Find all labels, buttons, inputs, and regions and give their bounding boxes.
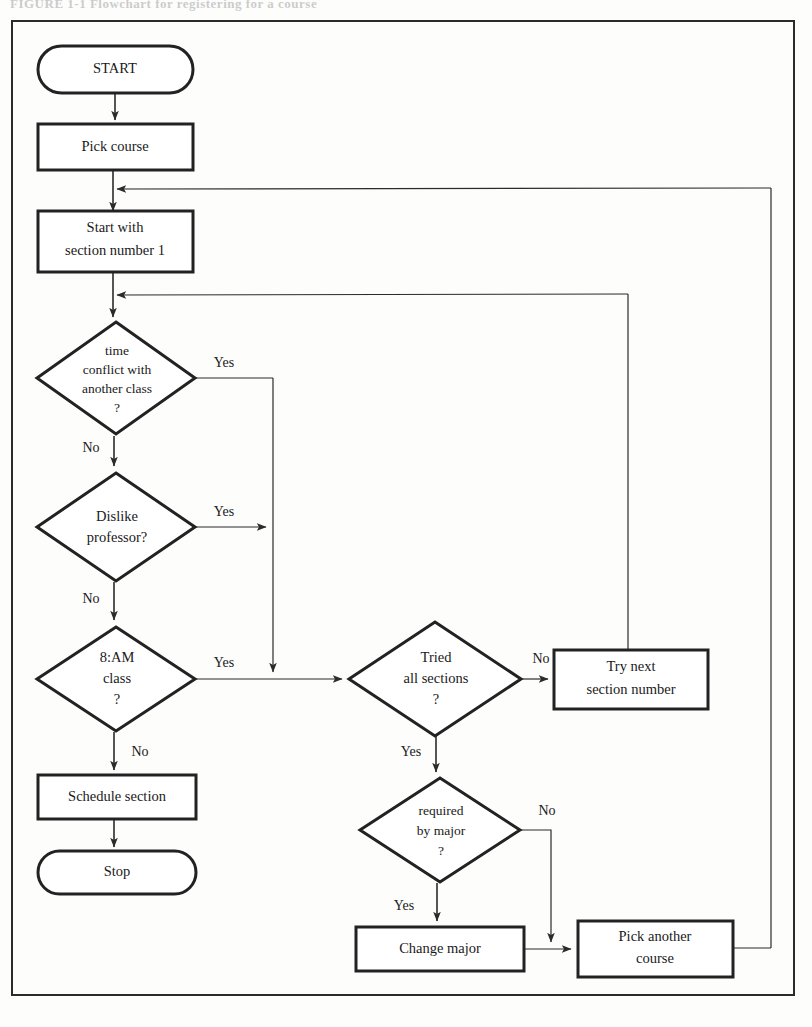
edge-label-time-conflict-yes: Yes	[214, 355, 234, 370]
node-required-by-major-line1: required	[419, 803, 464, 818]
node-try-next-section[interactable]: Try next section number	[554, 650, 708, 709]
node-pick-another-course[interactable]: Pick another course	[578, 921, 733, 977]
flowchart-page: FIGURE 1-1 Flowchart for registering for…	[0, 0, 812, 1027]
node-required-by-major-line2: by major	[417, 823, 466, 838]
edge-req-major-no	[521, 830, 551, 942]
node-time-conflict-line3: another class	[82, 381, 152, 396]
edge-loop-second-horizontal	[117, 294, 628, 295]
node-pick-another-course-line2: course	[636, 950, 674, 966]
node-eight-am-class-line2: class	[103, 670, 132, 686]
node-required-by-major-line3: ?	[438, 843, 444, 858]
node-required-by-major[interactable]: required by major ?	[360, 778, 520, 882]
node-pick-course[interactable]: Pick course	[38, 124, 193, 170]
node-tried-all-sections-line2: all sections	[404, 670, 469, 686]
edge-label-eight-am-yes: Yes	[214, 655, 234, 670]
node-time-conflict-line1: time	[105, 343, 129, 358]
node-try-next-section-line1: Try next	[606, 658, 655, 674]
node-start-with-section-line1: Start with	[87, 219, 145, 235]
edge-label-tried-all-yes: Yes	[401, 744, 421, 759]
edge-label-req-major-no: No	[538, 803, 555, 818]
node-eight-am-class-line1: 8:AM	[100, 649, 135, 665]
node-time-conflict[interactable]: time conflict with another class ?	[37, 322, 195, 434]
node-tried-all-sections-line3: ?	[433, 691, 439, 707]
edge-label-dislike-yes: Yes	[214, 504, 234, 519]
node-time-conflict-line2: conflict with	[83, 362, 152, 377]
node-schedule-section[interactable]: Schedule section	[38, 775, 196, 819]
node-start-label: START	[93, 60, 137, 76]
node-start[interactable]: START	[38, 46, 193, 93]
edge-label-eight-am-no: No	[131, 744, 148, 759]
node-dislike-professor-line1: Dislike	[96, 508, 138, 524]
node-eight-am-class[interactable]: 8:AM class ?	[37, 627, 195, 731]
node-schedule-section-label: Schedule section	[68, 788, 167, 804]
node-dislike-professor-line2: professor?	[87, 529, 147, 545]
node-tried-all-sections[interactable]: Tried all sections ?	[349, 622, 521, 736]
flowchart-canvas: START Pick course Start with section num…	[0, 0, 812, 1027]
node-dislike-professor[interactable]: Dislike professor?	[37, 473, 195, 581]
node-tried-all-sections-line1: Tried	[421, 649, 453, 665]
node-change-major-label: Change major	[399, 940, 481, 956]
node-change-major[interactable]: Change major	[356, 927, 524, 971]
edge-label-time-conflict-no: No	[82, 440, 99, 455]
node-stop[interactable]: Stop	[38, 851, 196, 894]
node-start-with-section-line2: section number 1	[65, 242, 165, 258]
node-pick-course-label: Pick course	[81, 138, 148, 154]
edge-label-dislike-no: No	[82, 591, 99, 606]
node-time-conflict-line4: ?	[114, 400, 120, 415]
node-try-next-section-line2: section number	[587, 681, 676, 697]
edge-label-req-major-yes: Yes	[394, 898, 414, 913]
edge-label-tried-all-no: No	[532, 651, 549, 666]
node-eight-am-class-line3: ?	[114, 691, 120, 707]
edge-loop-top-horizontal	[117, 188, 771, 189]
node-stop-label: Stop	[104, 863, 131, 879]
node-start-with-section[interactable]: Start with section number 1	[38, 211, 193, 272]
node-pick-another-course-line1: Pick another	[619, 928, 692, 944]
